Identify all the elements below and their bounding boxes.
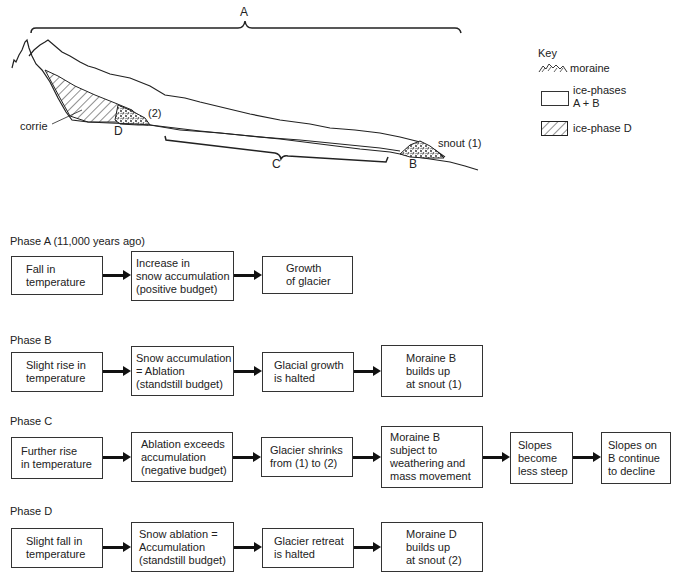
phase-d-step-1: Slight fall in temperature: [11, 528, 103, 568]
phase-c-step-2: Ablation exceeds accumulation (negative …: [131, 432, 233, 482]
label-snout-1: snout (1): [438, 137, 481, 149]
key-label-ice-phases-ab: ice-phases A + B: [573, 84, 626, 110]
phase-a-step-3: Growth of glacier: [262, 256, 353, 294]
label-b: B: [409, 157, 417, 171]
key-title: Key: [538, 47, 557, 59]
arrow-icon: [234, 546, 255, 549]
arrow-icon: [354, 546, 374, 549]
phase-c-step-3: Glacier shrinks from (1) to (2): [261, 437, 353, 477]
phase-d-step-3: Glacier retreat is halted: [262, 528, 354, 568]
phase-b-step-3: Glacial growth is halted: [262, 352, 354, 392]
arrow-icon: [103, 274, 124, 277]
label-corrie: corrie: [20, 120, 48, 132]
phase-b-title: Phase B: [10, 334, 52, 346]
phase-c-title: Phase C: [10, 415, 52, 427]
arrow-icon: [103, 546, 124, 549]
key-label-ice-phase-d: ice-phase D: [573, 122, 632, 134]
phase-b-step-2: Snow accumulation = Ablation (standstill…: [131, 346, 234, 396]
empty-box-icon: [541, 91, 569, 106]
arrow-icon: [234, 370, 255, 373]
arrow-icon: [353, 456, 374, 459]
phase-d-title: Phase D: [10, 505, 52, 517]
phase-c-step-6: Slopes on B continue to decline: [601, 432, 671, 484]
phase-c-step-1: Further rise in temperature: [11, 437, 103, 479]
phase-b-step-1: Slight rise in temperature: [11, 352, 103, 392]
arrow-icon: [573, 456, 594, 459]
brace-a: [31, 21, 461, 33]
phase-d-step-4: Moraine D builds up at snout (2): [381, 522, 483, 572]
hatched-box-icon: [541, 121, 568, 136]
label-c: C: [272, 157, 281, 171]
arrow-icon: [354, 370, 374, 373]
phase-a-title: Phase A (11,000 years ago): [10, 235, 145, 247]
arrow-icon: [103, 370, 124, 373]
label-pos-2: (2): [148, 107, 161, 119]
arrow-icon: [233, 456, 254, 459]
moraine-stipple-icon: [538, 62, 568, 74]
phase-a-step-1: Fall in temperature: [11, 256, 103, 295]
label-a: A: [240, 5, 248, 19]
phase-c-step-5: Slopes become less steep: [510, 432, 573, 484]
arrow-icon: [234, 274, 255, 277]
phase-c-step-4: Moraine B subject to weathering and mass…: [381, 426, 483, 488]
arrow-icon: [483, 456, 503, 459]
key-label-moraine: moraine: [570, 62, 610, 74]
label-d: D: [114, 124, 123, 138]
phase-b-step-4: Moraine B builds up at snout (1): [381, 345, 483, 397]
arrow-icon: [103, 456, 124, 459]
phase-d-step-2: Snow ablation = Accumulation (standstill…: [131, 522, 234, 572]
phase-a-step-2: Increase in snow accumulation (positive …: [131, 251, 234, 301]
